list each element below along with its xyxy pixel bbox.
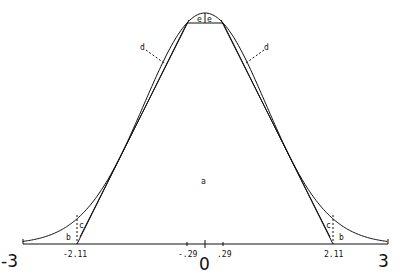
inner-line-right [221,20,330,237]
normal-curve [23,13,388,241]
label-b-right: b [339,233,344,242]
label-d-right: d [264,43,269,52]
d-leader-left [146,50,164,63]
tick-label-pos-029: .29 [217,250,232,259]
label-a: a [201,177,206,186]
tick-label-pos-211: 2.11 [324,250,343,259]
normal-curve-diagram: a b b c c d d e e -3 3 0 -2.11 -.29 .29 … [0,0,404,276]
label-c-right: c [326,221,331,230]
axis-label-max: 3 [378,251,389,271]
axis-label-min: -3 [1,251,18,271]
label-e-right: e [207,15,212,24]
label-c-left: c [79,221,84,230]
tick-label-neg-029: -.29 [178,250,197,259]
label-e-left: e [197,15,202,24]
approx-polygon [77,23,333,244]
tick-label-neg-211: -2.11 [63,250,87,259]
d-leader-right [246,50,264,63]
label-b-left: b [66,233,71,242]
label-d-left: d [140,43,145,52]
axis-label-zero: 0 [199,254,210,274]
inner-line-left [80,20,189,237]
